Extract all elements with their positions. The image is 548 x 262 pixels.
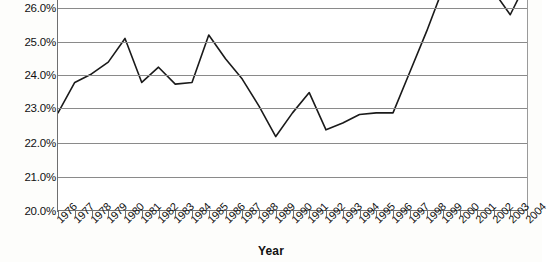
x-axis-title: Year	[0, 244, 542, 258]
